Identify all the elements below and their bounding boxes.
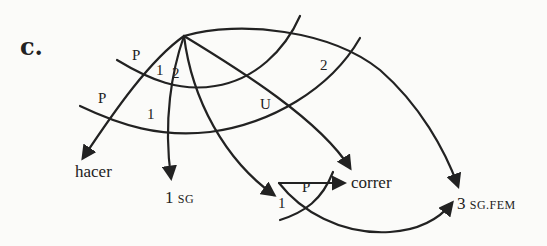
target-1sg: 1 SG	[165, 189, 194, 206]
target-1sg-feature: SG	[178, 192, 194, 206]
arc-apex-to-3sgfem	[184, 29, 458, 186]
label-1-small: 1	[278, 196, 286, 211]
target-1sg-number: 1	[165, 188, 174, 207]
edge-apex-to-junction	[184, 36, 274, 195]
target-correr: correr	[351, 174, 392, 191]
panel-label: c.	[20, 32, 43, 61]
label-2-right: 2	[320, 58, 328, 73]
label-1-upper: 1	[156, 63, 164, 78]
target-3sgfem-feature: SG.FEM	[470, 198, 516, 212]
target-3sgfem: 3 SG.FEM	[457, 195, 516, 212]
target-3sgfem-number: 3	[457, 194, 466, 213]
label-p-small: P	[302, 180, 310, 195]
target-hacer: hacer	[75, 163, 112, 180]
label-2-upper: 2	[172, 66, 180, 81]
label-u: U	[260, 97, 271, 112]
label-p-lower: P	[98, 91, 106, 106]
label-p-upper: P	[132, 48, 140, 63]
edge-apex-to-1sg	[168, 36, 184, 178]
label-1-lower: 1	[147, 107, 155, 122]
